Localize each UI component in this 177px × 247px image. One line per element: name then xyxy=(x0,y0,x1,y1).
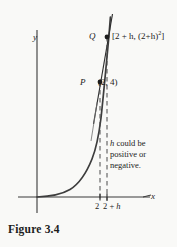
point-label-p: P xyxy=(80,78,86,87)
annotation-line-1: h could be xyxy=(110,138,146,149)
annotation-line-2: positive or xyxy=(110,149,146,160)
annotation-line-3: negative. xyxy=(110,160,146,171)
point-coords-q-tail: ] xyxy=(161,31,164,41)
point-label-q: Q xyxy=(89,32,96,41)
tick-label-2: 2 xyxy=(95,202,99,211)
annotation-note: h could be positive or negative. xyxy=(110,138,146,172)
figure-panel: y x Q [2 + h, (2+h)2] P (2, 4) 2 2 + h h… xyxy=(0,0,177,247)
parabola-curve xyxy=(37,17,110,197)
secant-line-extension xyxy=(91,102,97,141)
point-coords-p: (2, 4) xyxy=(98,78,118,87)
point-coords-q: [2 + h, (2+h)2] xyxy=(112,32,164,41)
figure-caption: Figure 3.4 xyxy=(8,224,60,236)
point-marker-q xyxy=(105,35,110,40)
annotation-variable-h: h xyxy=(110,138,114,148)
axis-label-x: x xyxy=(151,192,155,201)
axis-label-y: y xyxy=(33,33,37,42)
tick-label-2-plus-h: 2 + h xyxy=(103,202,121,211)
point-coords-q-base: [2 + h, (2+h) xyxy=(112,31,158,41)
